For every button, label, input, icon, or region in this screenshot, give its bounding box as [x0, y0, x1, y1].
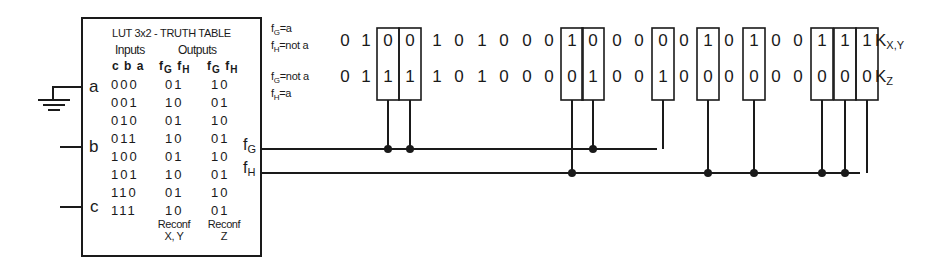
pin-a-label: a [89, 77, 98, 97]
bit-cell: 0 [653, 31, 673, 51]
bit-cell: 0 [378, 31, 398, 51]
bit-cell: 0 [607, 67, 627, 87]
truth-cell-out2: 01 [211, 203, 229, 218]
bit-cell: 0 [562, 67, 582, 87]
bit-cell: 0 [494, 31, 514, 51]
truth-cell-out1: 01 [165, 113, 183, 128]
inputs-header: Inputs [115, 43, 145, 57]
bit-cell: 1 [583, 67, 603, 87]
truth-cell-cba: 101 [111, 167, 139, 182]
bit-cell: 0 [629, 31, 649, 51]
truth-cell-out1: 10 [165, 167, 183, 182]
footer-reconf-xy: ReconfX, Y [151, 218, 197, 242]
bit-cell: 1 [400, 67, 420, 87]
truth-cell-out2: 01 [211, 167, 229, 182]
truth-cell-cba: 010 [111, 113, 139, 128]
bit-cell: 1 [653, 67, 673, 87]
bit-cell: 0 [400, 31, 420, 51]
bit-cell: 0 [698, 67, 718, 87]
output-fh-label: fH [243, 159, 255, 178]
bit-cell: 1 [812, 31, 832, 51]
kz-label: KZ [875, 67, 893, 87]
bit-cell: 0 [539, 31, 559, 51]
truth-cell-out1: 01 [165, 149, 183, 164]
truth-cell-cba: 011 [111, 131, 138, 146]
bit-cell: 0 [539, 67, 559, 87]
kxy-label: KX,Y [875, 31, 904, 51]
bit-cell: 0 [835, 67, 855, 87]
bit-cell: 0 [857, 67, 877, 87]
bit-cell: 1 [378, 67, 398, 87]
bit-cell: 0 [449, 31, 469, 51]
bit-cell: 0 [335, 31, 355, 51]
bit-cell: 0 [607, 31, 627, 51]
bit-cell: 0 [583, 31, 603, 51]
bit-cell: 0 [766, 67, 786, 87]
lut-block: LUT 3x2 - TRUTH TABLE Inputs Outputs c b… [81, 17, 262, 257]
truth-cell-out1: 10 [165, 203, 183, 218]
output-columns-reconf-xy: fG fH [159, 59, 190, 75]
truth-cell-out2: 10 [211, 77, 229, 92]
bit-cell: 0 [629, 67, 649, 87]
truth-cell-cba: 000 [111, 77, 139, 92]
ground-icon [38, 87, 81, 110]
bit-cell: 0 [517, 31, 537, 51]
output-columns-reconf-z: fG fH [207, 59, 238, 75]
bit-cell: 0 [517, 67, 537, 87]
truth-cell-out1: 10 [165, 131, 183, 146]
truth-cell-out1: 01 [165, 185, 183, 200]
truth-cell-cba: 001 [111, 95, 139, 110]
truth-cell-cba: 111 [111, 203, 137, 218]
bit-cell: 0 [494, 67, 514, 87]
bit-cell: 0 [719, 67, 739, 87]
bit-cell: 0 [788, 31, 808, 51]
outputs-header: Outputs [178, 43, 217, 57]
truth-cell-out2: 10 [211, 113, 229, 128]
truth-cell-out2: 01 [211, 95, 229, 110]
bit-cell: 1 [562, 31, 582, 51]
truth-cell-out2: 10 [211, 185, 229, 200]
truth-cell-out1: 01 [165, 77, 183, 92]
bit-cell: 0 [744, 67, 764, 87]
bit-cell: 1 [356, 67, 376, 87]
bit-cell: 0 [766, 31, 786, 51]
bit-cell: 1 [427, 31, 447, 51]
pin-c-label: c [90, 197, 99, 217]
truth-cell-out1: 10 [165, 95, 183, 110]
condition-row2: fG=not a fH=a [271, 70, 309, 104]
bit-cell: 1 [472, 67, 492, 87]
input-columns: c b a [112, 59, 144, 73]
bit-cell: 1 [744, 31, 764, 51]
bit-cell: 0 [788, 67, 808, 87]
bit-cell: 1 [356, 31, 376, 51]
bit-cell: 0 [719, 31, 739, 51]
bit-cell: 0 [812, 67, 832, 87]
truth-cell-cba: 100 [111, 149, 139, 164]
bit-cell: 0 [335, 67, 355, 87]
output-fg-label: fG [243, 136, 256, 155]
pin-b-label: b [89, 137, 98, 157]
bit-cell: 1 [835, 31, 855, 51]
truth-cell-out2: 10 [211, 149, 229, 164]
lut-title: LUT 3x2 - TRUTH TABLE [83, 27, 260, 39]
bit-cell: 1 [857, 31, 877, 51]
bit-cell: 1 [427, 67, 447, 87]
truth-cell-out2: 01 [211, 131, 229, 146]
bit-cell: 0 [674, 31, 694, 51]
condition-row1: fG=a fH=not a [271, 22, 308, 56]
column-drop-wires [384, 100, 867, 177]
footer-reconf-z: ReconfZ [201, 218, 247, 242]
bit-cell: 1 [472, 31, 492, 51]
bit-cell: 1 [698, 31, 718, 51]
bit-cell: 0 [449, 67, 469, 87]
truth-cell-cba: 110 [111, 185, 138, 200]
bit-cell: 0 [674, 67, 694, 87]
